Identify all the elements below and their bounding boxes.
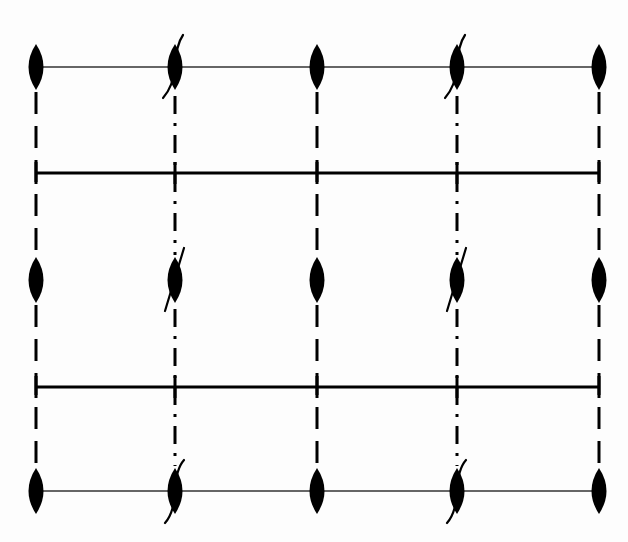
- lens-icon-r3-c5: [592, 468, 607, 514]
- lens-icon-r3-c1: [29, 468, 44, 514]
- lens-icon-r2-c3: [310, 257, 325, 303]
- lens-icon-r1-c3: [310, 44, 325, 90]
- lens-icon-r2-c5: [592, 257, 607, 303]
- lens-grid-diagram: [0, 0, 628, 542]
- lens-icon-r2-c1: [29, 257, 44, 303]
- lens-icon-r3-c3: [310, 468, 325, 514]
- lens-icon-r1-c1: [29, 44, 44, 90]
- lens-icon-r1-c5: [592, 44, 607, 90]
